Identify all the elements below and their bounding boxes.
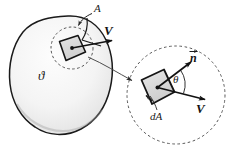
right-velocity-label: V xyxy=(196,101,206,116)
angle-label: θ xyxy=(173,73,179,85)
right-dashed-circle xyxy=(127,46,225,144)
control-volume-diagram: ϑ V A dA n xyxy=(0,0,236,146)
figure-container: ϑ V A dA n xyxy=(0,0,236,146)
volume-symbol-label: ϑ xyxy=(38,68,45,83)
area-element-label: A xyxy=(93,2,101,14)
angle-arc xyxy=(181,70,186,94)
differential-area-label: dA xyxy=(150,110,163,122)
control-volume-blob xyxy=(10,16,113,134)
normal-vector-label: n xyxy=(190,51,197,65)
normal-vector-label-group: n xyxy=(190,51,198,65)
left-velocity-label: V xyxy=(104,23,114,38)
